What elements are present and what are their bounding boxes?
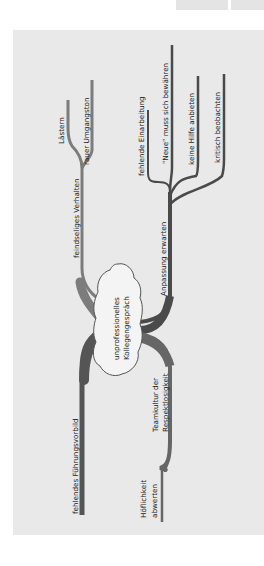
label-hoeflichkeit-line2: abwerten	[150, 484, 159, 518]
center-label-line1: unprofessionelles	[112, 297, 121, 360]
label-anpassung-erwarten: Anpassung erwarten	[159, 222, 168, 296]
label-keine-hilfe-anbieten: keine Hilfe anbieten	[187, 93, 196, 165]
label-fehlende-einarbeitung: fehlende Einarbeitung	[137, 96, 146, 176]
label-feindseliges-verhalten: feindseliges Verhalten	[72, 178, 81, 258]
label-teamkultur-line1: Teamkultur der	[151, 378, 160, 433]
central-cloud: unprofessionelles Kollegengespräch	[93, 264, 142, 376]
label-teamkultur-line2: Respektlosigkeit	[161, 373, 170, 432]
label-neue-muss-sich-bewaehren: "Neue" muss sich bewähren	[161, 63, 170, 164]
mind-map-canvas: unprofessionelles Kollegengespräch feind…	[0, 0, 264, 566]
label-laestern: Lästern	[57, 117, 66, 144]
label-kritisch-beobachten: kritisch beobachten	[213, 92, 222, 163]
label-hoeflichkeit-line1: Höflichkeit	[139, 480, 148, 518]
center-label-line2: Kollegengespräch	[122, 296, 131, 360]
branch-anpassung-erwarten	[140, 45, 224, 330]
label-fehlendes-fuehrungsvorbild: fehlendes Führungsvorbild	[71, 419, 80, 514]
label-rauer-umgangston: rauer Umgangston	[82, 98, 91, 165]
